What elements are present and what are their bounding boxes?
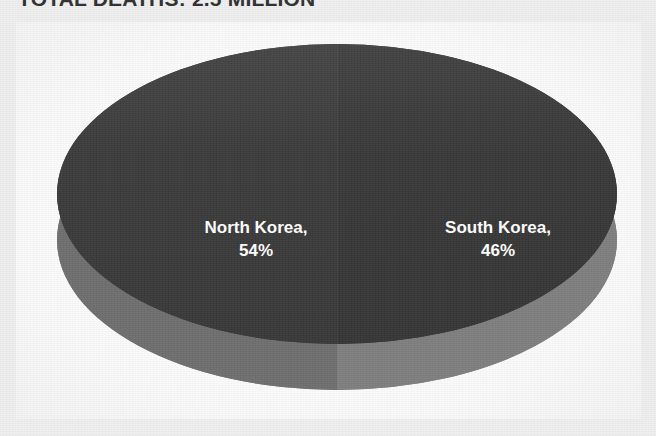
pie-label-north-korea: North Korea, 54% [171,216,341,262]
chart-plot-area: North Korea, 54% South Korea, 46% [16,22,641,419]
pie-top-face [57,44,617,344]
pie-label-south-korea: South Korea, 46% [413,216,583,262]
pie-label-south-korea-line2: 46% [413,239,583,262]
chart-title: TOTAL DEATHS: 2.5 MILLION [18,0,638,11]
pie-label-north-korea-line1: North Korea, [171,216,341,239]
pie-label-south-korea-line1: South Korea, [413,216,583,239]
chart-title-text: TOTAL DEATHS: 2.5 MILLION [18,0,638,11]
pie-sheen-overlay [57,44,617,344]
pie-chart: North Korea, 54% South Korea, 46% [57,44,617,390]
pie-label-north-korea-line2: 54% [171,239,341,262]
scanned-page: TOTAL DEATHS: 2.5 MILLION North Korea, 5… [0,0,656,436]
